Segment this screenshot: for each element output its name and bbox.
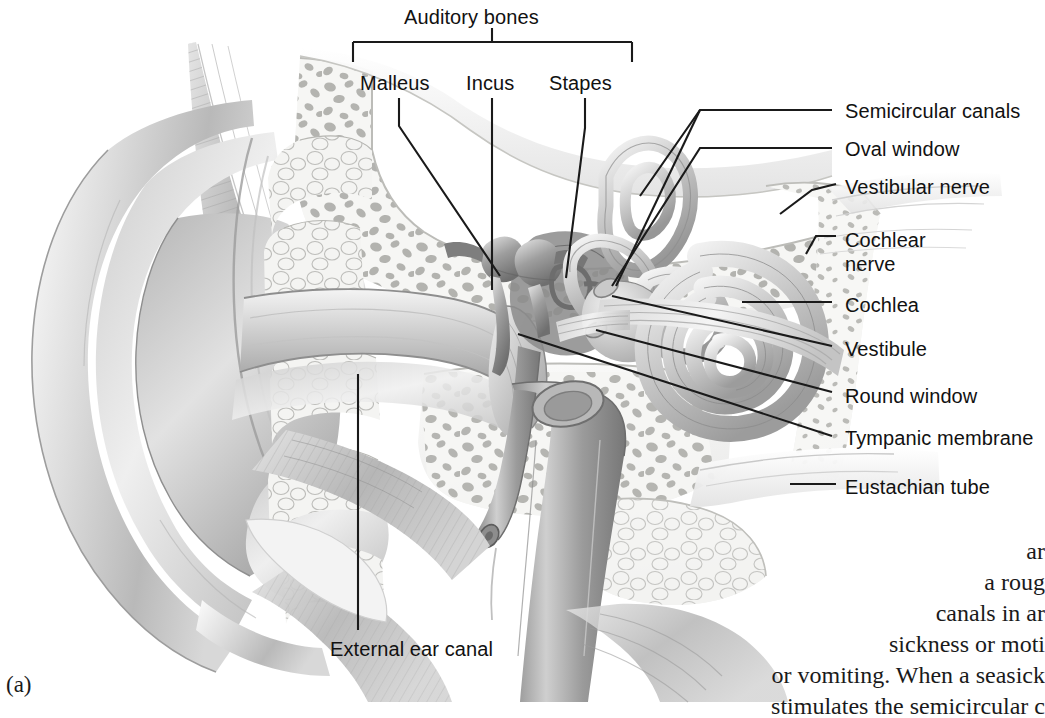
tympanic-membrane-label: Tympanic membrane: [845, 427, 1033, 450]
body-line-4: sickness or moti: [0, 629, 1045, 660]
body-line-2: a roug: [0, 567, 1045, 598]
cochlea-label: Cochlea: [845, 294, 919, 317]
round-window-label: Round window: [845, 385, 977, 408]
body-line-1: ar: [0, 536, 1045, 567]
oval-window-label: Oval window: [845, 138, 959, 161]
body-line-6: stimulates the semicircular c: [0, 691, 1045, 718]
semicircular-canals-label: Semicircular canals: [845, 100, 1020, 123]
vestibule-label: Vestibule: [845, 338, 927, 361]
auditory-bones-label: Auditory bones: [404, 6, 539, 29]
stapes-label: Stapes: [549, 72, 612, 95]
cochlear-nerve-label: Cochlear nerve: [845, 228, 926, 276]
body-line-3: canals in ar: [0, 598, 1045, 629]
body-line-5: or vomiting. When a seasick: [0, 660, 1045, 691]
body-paragraph: ar a roug canals in ar sickness or moti …: [0, 536, 1045, 718]
eustachian-tube-label: Eustachian tube: [845, 476, 990, 499]
incus-label: Incus: [466, 72, 514, 95]
vestibular-nerve-label: Vestibular nerve: [845, 176, 990, 199]
malleus-label: Malleus: [360, 72, 430, 95]
